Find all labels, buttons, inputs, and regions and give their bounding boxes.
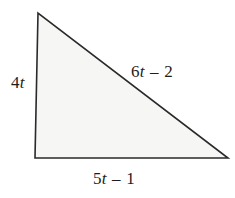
hypotenuse-operator: – xyxy=(149,62,160,81)
bottom-leg-coefficient: 5 xyxy=(93,169,102,188)
hypotenuse-variable: t xyxy=(140,62,145,81)
bottom-leg-variable: t xyxy=(102,169,107,188)
bottom-leg-operator: – xyxy=(111,169,122,188)
triangle-figure: 4t 6t – 2 5t – 1 xyxy=(0,0,235,198)
label-bottom-leg: 5t – 1 xyxy=(93,170,135,187)
left-leg-variable: t xyxy=(20,73,25,92)
label-left-leg: 4t xyxy=(11,74,25,91)
label-hypotenuse: 6t – 2 xyxy=(131,63,173,80)
bottom-leg-constant: 1 xyxy=(126,169,135,188)
hypotenuse-constant: 2 xyxy=(164,62,173,81)
triangle-outline xyxy=(35,13,228,158)
left-leg-coefficient: 4 xyxy=(11,73,20,92)
hypotenuse-coefficient: 6 xyxy=(131,62,140,81)
